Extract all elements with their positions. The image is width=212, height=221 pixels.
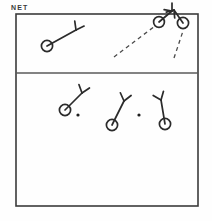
player-arm bbox=[65, 93, 82, 110]
racket-prong-1 bbox=[76, 26, 84, 30]
court-svg-canvas bbox=[0, 0, 212, 221]
player-near-left-player bbox=[59, 85, 89, 116]
player-far-left-player bbox=[41, 21, 84, 52]
shuttle-marker-right bbox=[137, 113, 140, 116]
badminton-court-diagram: NET bbox=[0, 0, 212, 221]
players-group bbox=[41, 3, 188, 131]
racket-prong-1 bbox=[161, 91, 163, 100]
player-near-right-player bbox=[153, 91, 170, 129]
player-far-right-player-a bbox=[154, 3, 172, 27]
racket-prong-0 bbox=[75, 21, 76, 30]
shuttle-path-long bbox=[114, 26, 155, 57]
player-near-middle-player bbox=[106, 93, 131, 131]
shuttle-path-short bbox=[174, 31, 183, 58]
racket-prong-0 bbox=[174, 10, 175, 18]
shuttle-marker-left bbox=[76, 113, 79, 116]
trajectory-group bbox=[114, 26, 183, 58]
shuttle-markers-group bbox=[76, 113, 140, 116]
racket-prong-0 bbox=[120, 93, 124, 101]
racket-prong-1 bbox=[82, 88, 89, 93]
racket-prong-0 bbox=[153, 96, 161, 101]
player-arm bbox=[112, 101, 124, 125]
racket-prong-0 bbox=[79, 85, 82, 93]
racket-prong-1 bbox=[124, 95, 131, 101]
